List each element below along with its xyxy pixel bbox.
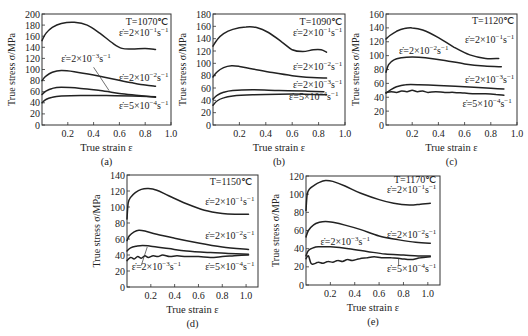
panel-caption: (a) [101, 156, 113, 168]
x-tick-label: 0.4 [87, 128, 100, 139]
y-tick-label: 120 [196, 46, 211, 57]
x-tick-label: 0.2 [62, 128, 75, 139]
x-tick-label: 1.0 [422, 288, 435, 299]
strain-rate-label: ε̇=2×10−2s−1 [205, 229, 255, 241]
y-tick-label: 80 [201, 70, 211, 81]
y-tick-label: 100 [289, 189, 304, 200]
strain-rate-label: ε̇=5×10−4s−1 [119, 99, 169, 111]
strain-rate-label: ε̇=2×10−2s−1 [293, 60, 343, 72]
y-tick-label: 160 [196, 21, 211, 32]
x-tick-label: 0.8 [397, 288, 410, 299]
panel-caption: (b) [273, 156, 286, 168]
strain-rate-label: ε̇=2×10−1s−1 [465, 33, 515, 45]
y-tick-label: 100 [196, 58, 211, 69]
y-tick-label: 80 [294, 207, 304, 218]
strain-rate-label: ε̇=2×10−2s−1 [399, 44, 449, 56]
series-line [306, 247, 430, 256]
chart-panel-e: 0204060801001200.20.40.60.81.0True strai… [270, 171, 440, 329]
x-tick-label: 0.6 [286, 128, 299, 139]
y-tick-label: 40 [115, 250, 125, 261]
y-tick-label: 100 [369, 50, 384, 61]
x-tick-label: 0.8 [216, 290, 229, 301]
panel-caption: (d) [186, 318, 199, 330]
y-tick-label: 40 [374, 92, 384, 103]
series-line [386, 57, 501, 72]
y-tick-label: 80 [30, 75, 40, 86]
x-tick-label: 0.2 [324, 288, 337, 299]
y-tick-label: 0 [206, 120, 211, 131]
y-tick-label: 160 [25, 31, 40, 42]
strain-rate-label: ε̇=2×10−2s−1 [387, 228, 437, 240]
x-tick-label: 0.8 [485, 128, 498, 139]
x-tick-label: 0.6 [458, 128, 471, 139]
y-tick-label: 0 [120, 282, 125, 293]
figure: 0204060801001201401601802000.20.40.60.81… [0, 0, 528, 336]
x-tick-label: 0.6 [192, 290, 205, 301]
x-tick-label: 0.6 [113, 128, 126, 139]
strain-rate-label: ε̇=5×10−4s−1 [462, 97, 512, 109]
x-tick-label: 0.4 [168, 290, 181, 301]
strain-rate-label: ε̇=5×10−4s−1 [387, 262, 437, 274]
y-tick-label: 140 [25, 42, 40, 53]
temperature-label: T=1150℃ [210, 176, 252, 187]
y-tick-label: 180 [196, 9, 211, 20]
panel-caption: (c) [446, 156, 458, 168]
strain-rate-label: ε̇=2×10−1s−1 [119, 26, 169, 38]
y-tick-label: 60 [30, 86, 40, 97]
series-line [386, 90, 504, 95]
x-tick-label: 0.2 [406, 128, 419, 139]
strain-rate-label: ε̇=5×10−4s−1 [289, 90, 339, 102]
x-tick-label: 0.2 [145, 290, 158, 301]
x-axis-label: True strain ε [166, 304, 219, 315]
y-tick-label: 120 [289, 171, 304, 182]
chart-panel-b: 0204060801001201401601800.20.40.60.81.0T… [177, 9, 351, 169]
y-tick-label: 120 [25, 53, 40, 64]
y-axis-label: True stress σ/MPa [91, 194, 102, 267]
strain-rate-label: ε̇=2×10−3s−1 [61, 52, 111, 64]
strain-rate-label: ε̇=2×10−1s−1 [293, 26, 343, 38]
x-tick-label: 0.4 [260, 128, 273, 139]
y-tick-label: 0 [379, 120, 384, 131]
y-tick-label: 100 [25, 64, 40, 75]
strain-rate-label: ε̇=2×10−2s−1 [119, 71, 169, 83]
y-tick-label: 140 [110, 170, 125, 181]
y-tick-label: 180 [25, 20, 40, 31]
y-axis-label: True stress σ/MPa [177, 33, 188, 106]
x-tick-label: 0.8 [312, 128, 325, 139]
y-tick-label: 20 [201, 107, 211, 118]
temperature-label: T=1120℃ [472, 15, 514, 26]
y-tick-label: 100 [110, 202, 125, 213]
strain-rate-label: ε̇=2×10−3s−1 [293, 78, 343, 90]
x-tick-label: 1.0 [240, 290, 253, 301]
x-tick-label: 1.0 [511, 128, 524, 139]
y-tick-label: 120 [110, 186, 125, 197]
y-tick-label: 0 [35, 120, 40, 131]
y-axis-label: True stress σ/MPa [270, 194, 281, 267]
y-axis-label: True stress σ/MPa [6, 33, 17, 106]
x-tick-label: 0.4 [432, 128, 445, 139]
y-tick-label: 140 [369, 22, 384, 33]
y-tick-label: 80 [115, 218, 125, 229]
y-tick-label: 60 [374, 78, 384, 89]
y-tick-label: 20 [374, 106, 384, 117]
chart-panel-d: 0204060801001201400.20.40.60.81.0True st… [91, 170, 258, 331]
y-tick-label: 60 [294, 225, 304, 236]
strain-rate-label: ε̇=2×10−3s−1 [132, 260, 182, 272]
y-tick-label: 60 [201, 83, 211, 94]
y-tick-label: 140 [196, 33, 211, 44]
x-axis-label: True strain ε [425, 142, 478, 153]
x-axis-label: True strain ε [253, 142, 306, 153]
strain-rate-label: ε̇=2×10−1s−1 [205, 195, 255, 207]
x-tick-label: 0.2 [233, 128, 246, 139]
y-tick-label: 0 [299, 280, 304, 291]
y-tick-label: 40 [294, 243, 304, 254]
y-tick-label: 120 [369, 36, 384, 47]
y-tick-label: 160 [369, 9, 384, 20]
strain-rate-label: ε̇=5×10−4s−1 [205, 260, 255, 272]
y-tick-label: 40 [30, 97, 40, 108]
leader-line [94, 67, 109, 90]
y-axis-label: True stress σ/MPa [350, 33, 361, 106]
strain-rate-label: ε̇=2×10−3s−1 [321, 235, 371, 247]
y-tick-label: 80 [374, 64, 384, 75]
plot-frame [386, 14, 517, 125]
